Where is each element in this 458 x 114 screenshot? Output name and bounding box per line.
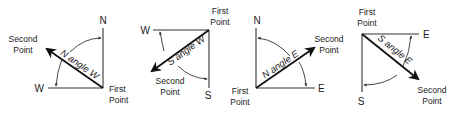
angle-label: S angle W — [165, 32, 208, 67]
first-point-label-1: First — [359, 7, 376, 17]
bearing-diagrams: N W Second Point First Point N angle W W… — [0, 0, 458, 114]
second-point-label-2: Point — [319, 45, 339, 55]
first-point-label-2: Point — [357, 18, 377, 28]
diagram-s-angle-w: W S First Point Second Point S angle W — [141, 6, 231, 101]
first-point-label-1: First — [212, 6, 229, 16]
angle-arc-e — [299, 62, 306, 86]
angle-label: N angle E — [260, 47, 301, 80]
diagram-n-angle-e: N E Second Point First Point N angle E — [230, 15, 343, 107]
second-point-label-2: Point — [13, 45, 33, 55]
diagram-s-angle-e: E S First Point Second Point S angle E — [357, 7, 446, 107]
axis-label-w: W — [141, 25, 151, 36]
angle-arc-w — [56, 59, 62, 86]
second-point-label-1: Second — [315, 34, 344, 44]
axis-label-n: N — [253, 15, 260, 26]
axis-label-e: E — [423, 29, 430, 40]
angle-arc-n — [70, 38, 101, 52]
axis-label-e: E — [318, 83, 325, 94]
axis-label-w: W — [35, 83, 45, 94]
second-point-label-1: Second — [9, 34, 38, 44]
first-point-label-1: First — [232, 86, 249, 96]
angle-arc-w — [160, 32, 164, 51]
first-point-label-1: First — [109, 84, 126, 94]
axis-label-n: N — [99, 15, 106, 26]
second-point-label-2: Point — [422, 96, 442, 106]
first-point-label-2: Point — [230, 97, 250, 107]
angle-label: N angle W — [59, 47, 103, 82]
angle-arc-s — [364, 75, 397, 85]
first-point-label-2: Point — [109, 95, 129, 105]
second-point-label-1: Second — [156, 76, 185, 86]
second-point-label-2: Point — [160, 87, 180, 97]
second-point-label-1: Second — [418, 85, 447, 95]
axis-label-s: S — [205, 90, 212, 101]
diagram-n-angle-w: N W Second Point First Point N angle W — [9, 15, 129, 105]
axis-label-s: S — [358, 96, 365, 107]
first-point-label-2: Point — [210, 17, 230, 27]
